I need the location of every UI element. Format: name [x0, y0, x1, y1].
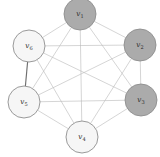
edge-v5-v6	[25, 62, 27, 86]
node-v3-circle[interactable]	[125, 84, 157, 116]
edge-v3-v4	[96, 109, 128, 129]
edge-v4-v5	[38, 110, 69, 128]
graph-figure: v1v2v3v4v5v6	[0, 0, 160, 157]
edge-v1-v4	[80, 30, 81, 121]
edge-v4-v6	[37, 60, 74, 123]
node-v5[interactable]: v5	[8, 86, 40, 118]
node-v5-circle[interactable]	[8, 86, 40, 118]
node-v6-circle[interactable]	[13, 30, 45, 62]
edge-v1-v2	[94, 21, 126, 37]
edge-v1-v6	[43, 23, 67, 38]
node-v6[interactable]: v6	[13, 30, 45, 62]
edge-v2-v6	[45, 45, 124, 46]
node-v4-circle[interactable]	[66, 121, 98, 153]
node-v2-circle[interactable]	[124, 29, 156, 61]
node-v2[interactable]: v2	[124, 29, 156, 61]
graph-canvas: v1v2v3v4v5v6	[0, 0, 160, 157]
edge-v3-v5	[40, 100, 125, 101]
node-layer: v1v2v3v4v5v6	[8, 0, 157, 153]
edge-v3-v6	[43, 53, 126, 93]
edge-v2-v4	[91, 59, 132, 124]
node-v1-circle[interactable]	[64, 0, 96, 30]
node-v4[interactable]: v4	[66, 121, 98, 153]
node-v1[interactable]: v1	[64, 0, 96, 30]
node-v3[interactable]: v3	[125, 84, 157, 116]
